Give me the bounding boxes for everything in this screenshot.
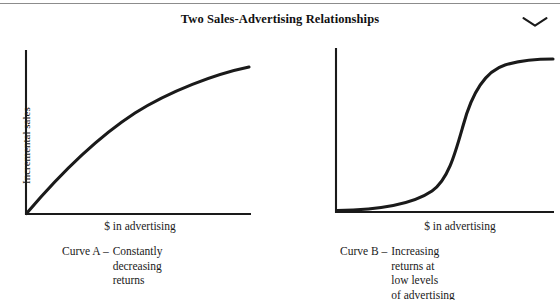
curve-a-caption-lead: Curve A –: [62, 244, 113, 259]
curve-b-line: [337, 59, 553, 211]
figure-body: Incremental sales $ in advertising Curve…: [0, 34, 560, 300]
caption-line: low levels: [391, 273, 455, 288]
curve-a-x-axis-label: $ in advertising: [60, 220, 220, 232]
curve-b-x-axis-label: $ in advertising: [380, 220, 540, 232]
curve-a-caption-lines: Constantly decreasing returns: [113, 244, 163, 288]
curve-b-plot: [280, 34, 560, 224]
curve-a-y-axis-label: Incremental sales: [20, 107, 32, 184]
curve-b-caption-lead: Curve B –: [340, 244, 391, 259]
curve-a-plot: [0, 34, 280, 224]
collapse-toggle[interactable]: [520, 13, 550, 31]
caption-line: returns at: [391, 259, 455, 274]
figure-header: Two Sales-Advertising Relationships: [0, 12, 560, 34]
curve-b-panel: Incremental sales $ in advertising Curve…: [280, 34, 560, 300]
header-divider: [0, 3, 560, 4]
caption-line: decreasing: [113, 259, 163, 274]
curve-b-caption-lines: Increasing returns at low levels of adve…: [391, 244, 455, 300]
curve-a-panel: Incremental sales $ in advertising Curve…: [0, 34, 280, 300]
caption-line: returns: [113, 273, 163, 288]
caption-line: Constantly: [113, 244, 163, 259]
caption-line: Increasing: [391, 244, 455, 259]
chevron-down-icon: [522, 16, 548, 28]
curve-a-line: [27, 67, 250, 214]
curve-b-caption: Curve B – Increasing returns at low leve…: [340, 244, 455, 300]
curve-a-caption: Curve A – Constantly decreasing returns: [62, 244, 162, 288]
caption-line: of advertising: [391, 288, 455, 300]
page-title: Two Sales-Advertising Relationships: [0, 12, 560, 27]
